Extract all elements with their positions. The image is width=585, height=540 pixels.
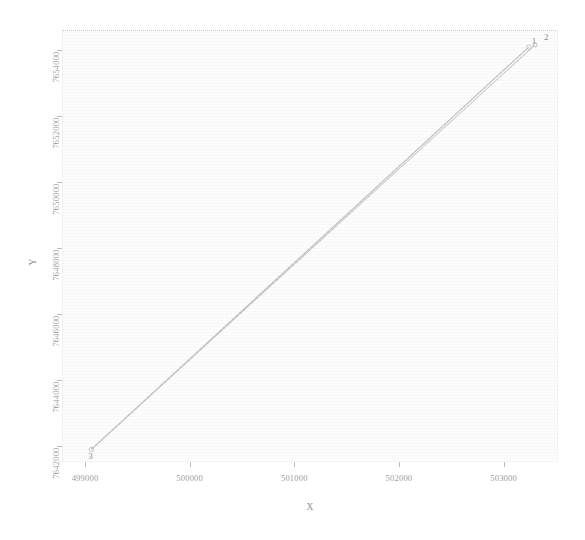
x-tick-label: 500000 xyxy=(176,473,203,483)
y-tick-label: 7650000 xyxy=(51,181,61,217)
y-tick-label: 7646000 xyxy=(51,313,61,349)
point-label-3: 3 xyxy=(88,451,93,461)
y-tick-label: 7642000 xyxy=(51,445,61,481)
point-label-2: 2 xyxy=(544,32,549,42)
x-tick-mark xyxy=(294,462,295,467)
series-line xyxy=(91,45,535,450)
x-tick-label: 502000 xyxy=(386,473,413,483)
x-tick-label: 499000 xyxy=(72,473,99,483)
x-tick-mark xyxy=(504,462,505,467)
point-label-1: 1 xyxy=(532,36,537,46)
x-axis-title: X xyxy=(307,502,314,512)
plot-lines xyxy=(62,30,558,462)
y-tick-label: 7654000 xyxy=(51,49,61,85)
y-tick-label: 7644000 xyxy=(51,379,61,415)
y-axis-title: Y xyxy=(28,259,38,266)
y-tick-label: 7648000 xyxy=(51,247,61,283)
x-tick-mark xyxy=(85,462,86,467)
y-tick-label: 7652000 xyxy=(51,115,61,151)
x-tick-mark xyxy=(190,462,191,467)
x-tick-label: 503000 xyxy=(490,473,517,483)
x-tick-label: 501000 xyxy=(281,473,308,483)
x-tick-mark xyxy=(399,462,400,467)
chart-figure: 7642000764400076460007648000765000076520… xyxy=(0,0,585,540)
